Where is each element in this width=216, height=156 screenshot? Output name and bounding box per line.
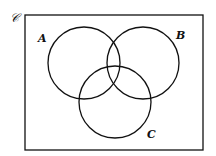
set-b-label: B (175, 29, 185, 42)
universal-set-label: 𝒞 (10, 11, 22, 25)
venn-diagram: 𝒞 A B C (0, 0, 216, 156)
set-a-label: A (37, 32, 47, 45)
set-c-circle (79, 66, 151, 138)
set-b-circle (107, 27, 179, 99)
set-a-circle (48, 27, 120, 99)
set-c-label: C (147, 128, 156, 141)
